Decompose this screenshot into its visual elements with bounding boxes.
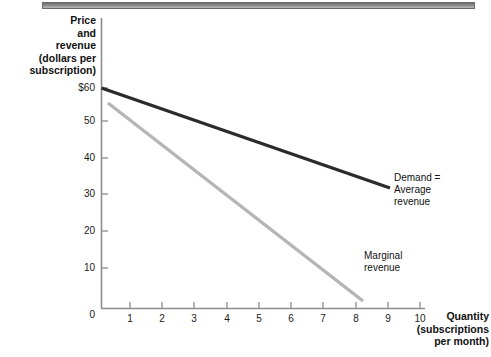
demand-average-revenue-line: [102, 88, 391, 188]
y-tick-label-50: 50: [55, 115, 95, 126]
y-tick-label-20: 20: [55, 225, 95, 236]
x-tick-label-2: 2: [147, 313, 177, 324]
y-tick-label-10: 10: [55, 262, 95, 273]
figure-container: Price and revenue (dollars per subscript…: [0, 0, 491, 357]
x-tick-label-3: 3: [179, 313, 209, 324]
x-tick-label-1: 1: [115, 313, 145, 324]
x-tick-label-10: 10: [405, 313, 435, 324]
y-tick-label-40: 40: [55, 152, 95, 163]
x-tick-label-6: 6: [276, 313, 306, 324]
x-tick-marks: [130, 302, 420, 309]
x-tick-label-9: 9: [373, 313, 403, 324]
demand-curve-label: Demand = Average revenue: [394, 172, 440, 208]
y-tick-marks: [102, 88, 109, 268]
y-tick-label-60: $60: [55, 82, 95, 93]
x-tick-label-7: 7: [308, 313, 338, 324]
x-tick-label-5: 5: [244, 313, 274, 324]
y-tick-label-30: 30: [55, 188, 95, 199]
y-axis-title: Price and revenue (dollars per subscript…: [29, 14, 96, 77]
y-tick-label-0: 0: [55, 309, 95, 320]
marginal-revenue-curve-label: Marginal revenue: [364, 250, 402, 274]
x-tick-label-8: 8: [341, 313, 371, 324]
x-tick-label-4: 4: [212, 313, 242, 324]
